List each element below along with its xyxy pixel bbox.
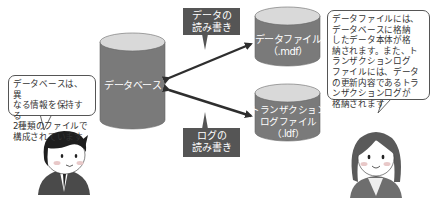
tag-data-line2: 読み書き	[186, 22, 237, 34]
right-bubble-line: ランザクションログ	[332, 56, 425, 67]
arrow-log-rw	[169, 90, 251, 116]
left-bubble-line: 構成されています	[13, 132, 91, 143]
right-bubble-line: データファイルには、	[332, 14, 425, 25]
tag-data-line1: データの	[186, 10, 237, 22]
database-label-text: データベース	[104, 80, 161, 91]
log-file-label-line1: トランザクション	[248, 104, 328, 116]
log-file-label: トランザクション ログファイル （.ldf）	[248, 104, 328, 140]
data-file-label-line1: データファイル	[252, 34, 324, 46]
right-bubble-line: 格納されます	[332, 99, 425, 110]
tag-log-pointer	[202, 112, 208, 129]
data-file-label: データファイル （.mdf）	[252, 34, 324, 58]
tag-data-read-write: データの 読み書き	[183, 8, 240, 35]
right-bubble-line: ンザクションログが	[332, 88, 425, 99]
data-file-label-line2: （.mdf）	[252, 46, 324, 58]
tag-data-pointer	[202, 34, 208, 50]
left-bubble-line: 2種類のファイルで	[13, 121, 91, 132]
log-file-label-line3: （.ldf）	[248, 128, 328, 140]
right-bubble-line: 納されます。また、ト	[332, 46, 425, 57]
arrow-data-rw	[169, 44, 251, 78]
tag-log-read-write: ログの 読み書き	[183, 128, 240, 157]
tag-log-line2: 読み書き	[186, 142, 237, 154]
database-label: データベース	[100, 80, 165, 92]
left-bubble-line: なる情報を保持する	[13, 100, 91, 121]
right-bubble-line: ファイルには、データ	[332, 67, 425, 78]
right-bubble-line: したデータ本体が格	[332, 35, 425, 46]
girl-avatar	[350, 132, 402, 198]
tag-log-line1: ログの	[186, 130, 237, 142]
right-speech-bubble: データファイルには、 データベースに格納 したデータ本体が格 納されます。また、…	[327, 10, 430, 100]
left-speech-bubble: データベースは、異 なる情報を保持する 2種類のファイルで 構成されています	[8, 75, 96, 116]
left-bubble-line: データベースは、異	[13, 79, 91, 100]
log-file-label-line2: ログファイル	[248, 116, 328, 128]
right-bubble-line: の更新内容であるトラ	[332, 78, 425, 89]
right-bubble-line: データベースに格納	[332, 25, 425, 36]
